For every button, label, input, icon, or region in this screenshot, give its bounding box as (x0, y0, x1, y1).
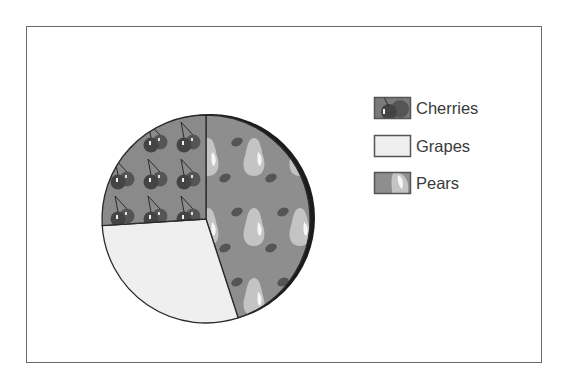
legend-label-grapes: Grapes (416, 137, 470, 155)
legend-swatch-grapes (375, 136, 411, 157)
legend-swatch-cherries (375, 98, 411, 119)
legend-swatch-pears (375, 173, 411, 194)
pie-slices (102, 115, 310, 323)
legend-label-cherries: Cherries (416, 99, 478, 117)
pie-chart: Cherries Grapes Pears (0, 0, 568, 390)
legend-label-pears: Pears (416, 174, 459, 192)
pie-slice-cherries (102, 115, 206, 226)
